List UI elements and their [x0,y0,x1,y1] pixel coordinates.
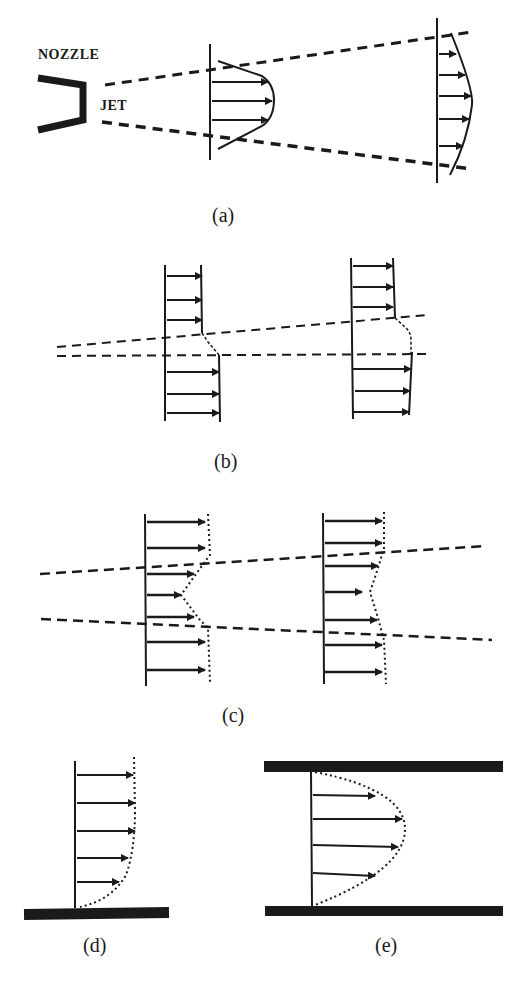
profile-edge [409,352,412,415]
bottom-wall [265,906,503,916]
panel-e-channel-flow: (e) [264,761,503,957]
velocity-arrow [313,845,398,847]
shear-boundary-lower [57,354,427,356]
velocity-arrow [313,873,375,876]
shear-transition-curve [395,318,411,355]
shear-boundary-upper [57,315,427,347]
profile-edge [393,258,395,318]
panel-c-wake: (c) [40,512,492,727]
wake-profile-curve [181,514,210,683]
parabolic-profile-curve [315,772,405,905]
jet-label: JET [100,98,127,113]
panel-e-caption: (e) [375,934,397,957]
panel-d-boundary-layer: (d) [24,757,169,957]
panel-c-caption: (c) [222,704,244,727]
wake-boundary-lower [41,619,492,640]
wake-boundary-upper [40,546,486,574]
panel-a-caption: (a) [212,204,234,227]
profile-edge [219,355,220,422]
nozzle-label: NOZZLE [38,47,99,62]
profile-axis [311,771,312,906]
profile-axis [323,513,324,684]
panel-b-shear-layer: (b) [57,258,427,473]
velocity-profile-curve [218,61,274,149]
panel-d-caption: (d) [83,934,106,957]
profile-axis [145,514,146,686]
shear-transition-curve [202,333,219,355]
panel-b-caption: (b) [214,450,237,473]
jet-boundary-lower [102,122,472,169]
wake-profile-curve [370,512,386,684]
top-wall [264,761,503,772]
flat-wall [24,907,169,920]
profile-edge [201,265,202,333]
panel-a-jet: NOZZLE JET (a) [38,18,472,227]
nozzle-shape [38,78,83,130]
velocity-arrow [313,795,375,796]
velocity-profiles-diagram: NOZZLE JET (a) [0,0,523,983]
jet-boundary-upper [105,32,472,85]
profile-axis [351,258,353,419]
